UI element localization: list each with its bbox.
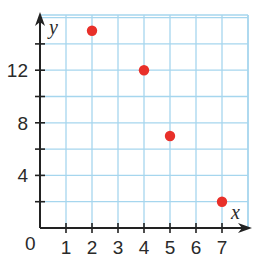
- data-point: [217, 197, 227, 207]
- x-tick-label: 6: [191, 237, 202, 258]
- y-tick-label: 12: [7, 60, 28, 81]
- data-points: [87, 26, 227, 207]
- scatter-chart: 12345674812 x y 0: [0, 0, 254, 263]
- grid: [40, 15, 248, 228]
- x-tick-label: 3: [113, 237, 124, 258]
- data-point: [165, 131, 175, 141]
- x-tick-label: 5: [165, 237, 176, 258]
- ticks: [35, 44, 222, 233]
- origin-label: 0: [25, 233, 36, 254]
- y-tick-label: 8: [17, 113, 28, 134]
- data-point: [139, 65, 149, 75]
- y-axis-title: y: [47, 16, 58, 39]
- y-tick-label: 4: [17, 165, 28, 186]
- x-axis-title: x: [230, 201, 240, 223]
- x-tick-label: 1: [61, 237, 72, 258]
- x-tick-label: 7: [217, 237, 228, 258]
- x-tick-label: 2: [87, 237, 98, 258]
- x-tick-label: 4: [139, 237, 150, 258]
- data-point: [87, 26, 97, 36]
